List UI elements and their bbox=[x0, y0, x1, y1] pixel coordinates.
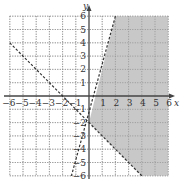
y-tick-label: 1 bbox=[80, 78, 86, 88]
y-tick-label: −3 bbox=[73, 131, 87, 141]
x-tick-label: 3 bbox=[127, 98, 133, 108]
x-tick-label: −6 bbox=[2, 98, 16, 108]
x-tick-label: 1 bbox=[100, 98, 106, 108]
x-tick-label: 2 bbox=[114, 98, 120, 108]
y-tick-label: 3 bbox=[80, 51, 86, 61]
y-tick-label: −6 bbox=[73, 171, 87, 181]
y-tick-label: 6 bbox=[80, 11, 86, 21]
y-tick-label: 5 bbox=[80, 25, 86, 35]
x-tick-label: −5 bbox=[15, 98, 29, 108]
y-tick-label: −2 bbox=[73, 118, 86, 128]
x-tick-label: 5 bbox=[153, 98, 159, 108]
x-tick-label: −4 bbox=[29, 98, 43, 108]
x-tick-label: −2 bbox=[55, 98, 68, 108]
y-tick-label: −1 bbox=[73, 104, 86, 114]
y-axis-label: y bbox=[82, 1, 89, 11]
x-tick-label: 6 bbox=[166, 98, 172, 108]
x-tick-label: 4 bbox=[140, 98, 146, 108]
x-axis-label: x bbox=[174, 98, 179, 108]
y-tick-label: 4 bbox=[80, 38, 86, 48]
y-tick-label: 2 bbox=[80, 64, 86, 74]
inequality-graph: x y −6−5−4−3−2−1123456654321−1−2−3−4−5−6 bbox=[0, 0, 181, 181]
x-tick-label: −3 bbox=[42, 98, 56, 108]
